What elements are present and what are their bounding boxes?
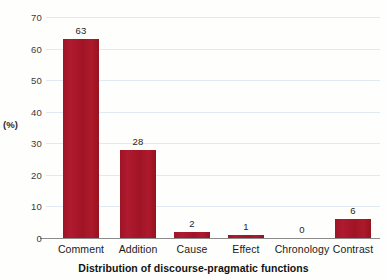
bar-value-label: 63 [76,25,87,36]
bar-value-label: 6 [350,205,355,216]
x-axis-tick-label: Comment [58,243,104,255]
bar-value-label: 2 [189,218,194,229]
bar [335,219,371,238]
x-axis-tick-label: Contrast [333,243,373,255]
y-axis-tick-label: 10 [4,201,42,212]
x-axis-tick-label: Cause [177,243,208,255]
y-axis-tick-label: 50 [4,75,42,86]
y-axis-tick-label: 40 [4,106,42,117]
y-axis-tick-label: 0 [4,233,42,244]
x-axis-tick-label: Effect [232,243,259,255]
y-axis-tick-label: 20 [4,169,42,180]
x-axis-line [40,238,380,239]
bar-value-label: 28 [133,136,144,147]
y-axis-tick-label: 30 [4,138,42,149]
x-axis-title: Distribution of discourse-pragmatic func… [0,262,387,274]
y-axis-tick-labels: 010203040506070 [0,0,42,280]
bar-value-label: 0 [299,224,304,235]
bar [63,39,99,238]
x-axis-tick-label: Addition [119,243,158,255]
y-axis-tick-label: 60 [4,43,42,54]
bar [120,150,156,238]
plot-area [46,17,380,238]
y-axis-title: (%) [3,119,18,130]
bar-chart: 010203040506070 (%) 63282106 CommentAddi… [0,0,387,280]
y-axis-tick-label: 70 [4,12,42,23]
x-axis-tick-label: Chronology [275,243,330,255]
bar-value-label: 1 [243,221,248,232]
gridline [46,17,380,18]
